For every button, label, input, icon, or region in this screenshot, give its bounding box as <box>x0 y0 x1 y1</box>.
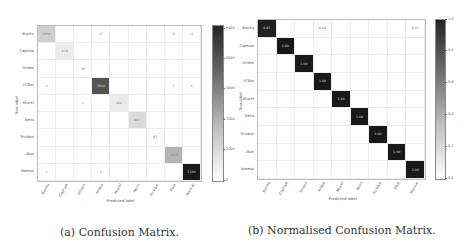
heatmap-cell <box>351 91 370 109</box>
heatmap-cell <box>388 38 407 56</box>
heatmap-cell <box>74 147 92 164</box>
heatmap-cell: 419 <box>56 43 74 60</box>
heatmap-cell <box>295 126 314 144</box>
heatmap-cell <box>277 144 296 162</box>
heatmap-cell <box>129 26 147 43</box>
heatmap-cell <box>92 129 110 146</box>
cell-value: 1050 <box>42 32 50 36</box>
heatmap-cell: 1.00 <box>369 126 388 144</box>
heatmap-cell: 3800 <box>92 78 110 95</box>
heatmap-cell <box>38 43 56 60</box>
cell-value: 4 <box>190 84 192 88</box>
heatmap-cell <box>147 164 165 181</box>
heatmap-cell <box>183 147 201 164</box>
heatmap-cell <box>165 129 183 146</box>
x-tick-label: Trickbot <box>372 181 383 195</box>
heatmap-cell <box>351 144 370 162</box>
heatmap-cell <box>129 60 147 77</box>
cell-value: 11 <box>189 32 193 36</box>
heatmap-cell <box>351 55 370 73</box>
heatmap-cell <box>369 55 388 73</box>
heatmap-cell <box>129 95 147 112</box>
heatmap-cell: 1.00 <box>332 91 351 109</box>
heatmap-cell <box>74 129 92 146</box>
heatmap-cell <box>369 20 388 38</box>
heatmap-cell <box>183 95 201 112</box>
heatmap-cell <box>110 147 128 164</box>
heatmap-cell <box>147 60 165 77</box>
y-tick-label: Bunitu <box>4 32 34 36</box>
heatmap-cell <box>314 161 333 179</box>
cell-value: 3 <box>172 84 174 88</box>
heatmap-cell <box>74 26 92 43</box>
heatmap-cell <box>56 26 74 43</box>
colorbar <box>212 25 224 182</box>
cell-value: 1.00 <box>300 62 307 66</box>
heatmap-cell: 0.97 <box>258 20 277 38</box>
heatmap-cell <box>295 108 314 126</box>
heatmap-cell <box>165 60 183 77</box>
x-tick-label: Dridex <box>298 181 307 193</box>
heatmap-cell <box>110 60 128 77</box>
heatmap-cell <box>295 38 314 56</box>
cell-value: 0.97 <box>263 26 270 30</box>
y-tick-label: Normal <box>224 167 254 171</box>
heatmap-cell: 1.00 <box>295 55 314 73</box>
heatmap-cell <box>277 55 296 73</box>
heatmap-cell <box>183 43 201 60</box>
cell-value: 1.00 <box>282 44 289 48</box>
heatmap-cell <box>38 147 56 164</box>
y-tick-label: Trickbot <box>4 135 34 139</box>
heatmap-cell <box>129 164 147 181</box>
x-tick-label: Caphaw <box>58 183 69 197</box>
heatmap-cell: 1667 <box>165 147 183 164</box>
cell-value: 1667 <box>169 153 177 157</box>
heatmap-cell <box>74 78 92 95</box>
heatmap-cell <box>92 60 110 77</box>
heatmap-cell: 1.00 <box>406 161 425 179</box>
heatmap-cell: 0.02 <box>314 20 333 38</box>
heatmap-cell: 6 <box>38 78 56 95</box>
heatmap-cell: 0.01 <box>406 20 425 38</box>
heatmap-cell <box>314 126 333 144</box>
y-tick-label: Bunitu <box>224 26 254 30</box>
heatmap-grid: 1050178114193963800341460807831667145100 <box>37 25 202 182</box>
colorbar-tick-label: 0.4 <box>448 112 453 116</box>
heatmap-cell <box>129 43 147 60</box>
y-tick-label: Miuref <box>4 101 34 105</box>
x-tick-label: Caphaw <box>279 181 290 195</box>
cell-value: 5100 <box>187 170 195 174</box>
heatmap-cell: 1 <box>74 95 92 112</box>
heatmap-cell <box>351 161 370 179</box>
cell-value: 419 <box>62 49 68 53</box>
heatmap-cell <box>258 126 277 144</box>
colorbar-tick-label: 0.8 <box>448 48 453 52</box>
y-tick-label: Zbot <box>4 152 34 156</box>
heatmap-cell <box>183 60 201 77</box>
heatmap-cell <box>56 95 74 112</box>
cell-value: 460 <box>116 101 122 105</box>
heatmap-cell <box>351 20 370 38</box>
heatmap-cell <box>369 91 388 109</box>
colorbar-tick-label: 0.0 <box>448 176 453 180</box>
heatmap-cell <box>165 43 183 60</box>
cell-value: 1.00 <box>337 97 344 101</box>
heatmap-cell <box>258 144 277 162</box>
heatmap-cell <box>332 73 351 91</box>
heatmap-cell <box>74 43 92 60</box>
heatmap-cell: 8 <box>165 26 183 43</box>
heatmap-cell <box>277 20 296 38</box>
y-tick-label: HTBot <box>4 83 34 87</box>
heatmap-cell <box>332 38 351 56</box>
heatmap-cell <box>332 55 351 73</box>
heatmap-cell <box>258 161 277 179</box>
y-axis-title: True label <box>238 92 243 110</box>
heatmap-cell <box>129 129 147 146</box>
x-tick-label: Bunitu <box>41 183 50 195</box>
heatmap-cell <box>369 161 388 179</box>
colorbar <box>435 19 446 180</box>
heatmap-cell <box>369 38 388 56</box>
heatmap-cell <box>406 55 425 73</box>
colorbar-tick-label: 3000 <box>226 86 235 90</box>
heatmap-cell <box>388 73 407 91</box>
